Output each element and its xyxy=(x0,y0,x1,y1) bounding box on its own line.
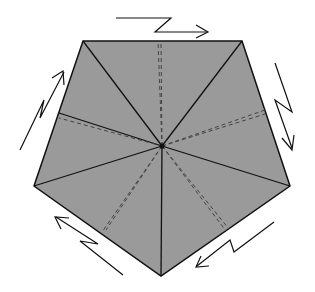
center-point xyxy=(160,144,165,149)
top-shear-arrow xyxy=(116,18,208,38)
right-shear-arrow xyxy=(275,63,294,150)
pentagon-diagram xyxy=(0,0,315,292)
